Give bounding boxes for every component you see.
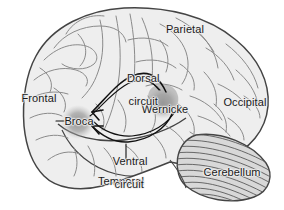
brain-illustration <box>0 0 284 210</box>
cerebellum-region <box>170 130 276 210</box>
broca-area-blob <box>61 105 95 139</box>
brain-diagram: Frontal Parietal Occipital Temporal Cere… <box>0 0 284 210</box>
